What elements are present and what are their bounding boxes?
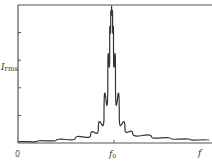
f0-sub: 0 — [112, 152, 116, 159]
x-tick-label-f0: f0 — [109, 150, 116, 159]
resonance-curve — [18, 6, 209, 142]
y-axis-label: Irms — [1, 63, 18, 73]
resonance-chart — [0, 0, 212, 164]
x-axis-label: f — [198, 149, 201, 158]
y-label-sub: rms — [5, 65, 19, 73]
x-tick-label-origin: 0 — [15, 151, 20, 159]
